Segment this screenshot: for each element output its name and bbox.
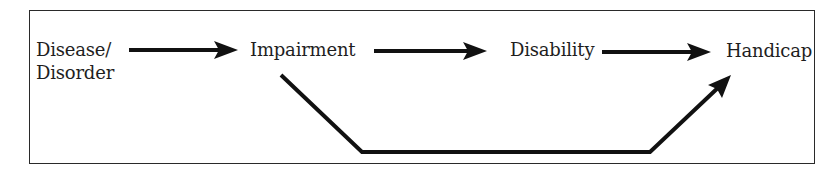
edges-layer — [0, 0, 837, 176]
disablement-model-diagram: Disease/ Disorder Impairment Disability … — [0, 0, 837, 176]
edge-impairment-to-handicap-bypass — [281, 75, 731, 152]
edge-impairment-to-disability — [374, 42, 487, 60]
edge-disease-to-impairment — [129, 41, 238, 59]
edge-disability-to-handicap — [602, 43, 711, 61]
